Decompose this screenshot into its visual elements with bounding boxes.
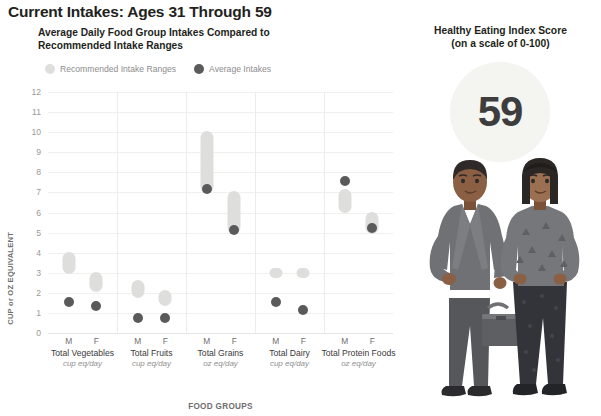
y-axis-tick-label: 7 — [36, 187, 41, 197]
group-separator — [117, 92, 118, 333]
two-adults-illustration — [402, 150, 601, 416]
healthy-eating-index-panel: Healthy Eating Index Score (on a scale o… — [400, 0, 601, 416]
legend-item-recommended: Recommended Intake Ranges — [45, 64, 176, 74]
sex-label: F — [370, 336, 375, 346]
sex-label: F — [163, 336, 168, 346]
recommended-range-marker — [269, 268, 282, 278]
gridline: 1 — [48, 313, 393, 314]
food-group-label: Total Vegetablescup eq/day — [44, 348, 122, 370]
gridline: 0 — [48, 333, 393, 334]
y-axis-tick-label: 8 — [36, 167, 41, 177]
gridline: 10 — [48, 132, 393, 133]
y-axis-tick-label: 11 — [32, 107, 41, 117]
food-group-name: Total Vegetables — [51, 348, 114, 358]
chart-legend: Recommended Intake Ranges Average Intake… — [45, 64, 271, 74]
sex-label: M — [203, 336, 210, 346]
average-intake-dot — [64, 297, 74, 307]
y-axis-tick-label: 9 — [36, 147, 41, 157]
group-separator — [324, 92, 325, 333]
y-axis-title: CUP or OZ EQUIVALENT — [6, 232, 20, 325]
food-group-label: Total Grainsoz eq/day — [182, 348, 260, 370]
y-axis-tick-label: 6 — [36, 208, 41, 218]
average-intake-dot — [133, 313, 143, 323]
average-intake-dot — [160, 313, 170, 323]
sex-label: F — [301, 336, 306, 346]
sex-label: M — [272, 336, 279, 346]
y-axis-tick-label: 5 — [36, 228, 41, 238]
page-title: Current Intakes: Ages 31 Through 59 — [8, 3, 272, 21]
average-intake-dot — [271, 297, 281, 307]
plot-area: 0123456789101112 — [48, 92, 393, 333]
gridline: 11 — [48, 112, 393, 113]
gridline: 9 — [48, 152, 393, 153]
group-separator — [255, 92, 256, 333]
food-group-label: Total Protein Foodsoz eq/day — [320, 348, 398, 370]
recommended-range-marker — [297, 268, 310, 278]
group-separator — [186, 92, 187, 333]
average-intake-dot — [298, 305, 308, 315]
recommended-range-marker — [159, 290, 172, 306]
food-group-unit: oz eq/day — [182, 359, 260, 369]
y-axis-tick-label: 3 — [36, 268, 41, 278]
gridline: 12 — [48, 92, 393, 93]
chart-panel: CUP or OZ EQUIVALENT 0123456789101112 MF… — [0, 80, 400, 416]
gridline: 2 — [48, 293, 393, 294]
y-axis-tick-label: 10 — [31, 127, 41, 137]
y-axis-tick-label: 2 — [36, 288, 41, 298]
food-group-label: Total Fruitscup eq/day — [113, 348, 191, 370]
circle-swatch-icon — [45, 64, 55, 74]
sex-label: M — [65, 336, 72, 346]
chart-subtitle: Average Daily Food Group Intakes Compare… — [38, 27, 308, 52]
hei-subtitle: (on a scale of 0-100) — [400, 37, 601, 50]
gridline: 8 — [48, 172, 393, 173]
y-axis-tick-label: 12 — [31, 87, 41, 97]
hei-title-text: Healthy Eating Index Score — [434, 25, 567, 36]
average-intake-dot — [91, 301, 101, 311]
recommended-range-marker — [90, 272, 103, 292]
circle-swatch-icon — [194, 64, 204, 74]
legend-label-recommended: Recommended Intake Ranges — [60, 64, 176, 74]
average-intake-dot — [229, 225, 239, 235]
food-group-name: Total Fruits — [130, 348, 172, 358]
food-group-label: Total Dairycup eq/day — [251, 348, 329, 370]
legend-label-average: Average Intakes — [209, 64, 271, 74]
food-group-name: Total Protein Foods — [321, 348, 395, 358]
average-intake-dot — [340, 176, 350, 186]
average-intake-dot — [367, 223, 377, 233]
gridline: 4 — [48, 253, 393, 254]
average-intake-dot — [202, 184, 212, 194]
x-axis-title: FOOD GROUPS — [48, 402, 393, 411]
food-group-name: Total Dairy — [269, 348, 310, 358]
y-axis-tick-label: 4 — [36, 248, 41, 258]
hei-score-value: 59 — [478, 91, 523, 133]
food-group-unit: cup eq/day — [44, 359, 122, 369]
sex-label: F — [232, 336, 237, 346]
sex-label: F — [94, 336, 99, 346]
y-axis-tick-label: 1 — [36, 308, 41, 318]
gridline: 5 — [48, 233, 393, 234]
food-group-name: Total Grains — [198, 348, 244, 358]
recommended-range-marker — [62, 252, 75, 274]
recommended-range-marker — [131, 280, 144, 298]
hei-score-badge: 59 — [450, 62, 550, 162]
food-group-unit: cup eq/day — [251, 359, 329, 369]
y-axis-tick-label: 0 — [36, 328, 41, 338]
legend-item-average: Average Intakes — [194, 64, 271, 74]
food-group-unit: cup eq/day — [113, 359, 191, 369]
sex-label: M — [341, 336, 348, 346]
x-axis: MFTotal Vegetablescup eq/dayMFTotal Frui… — [48, 336, 393, 406]
recommended-range-marker — [338, 189, 351, 213]
hei-title: Healthy Eating Index Score (on a scale o… — [400, 24, 601, 50]
food-group-unit: oz eq/day — [320, 359, 398, 369]
sex-label: M — [134, 336, 141, 346]
